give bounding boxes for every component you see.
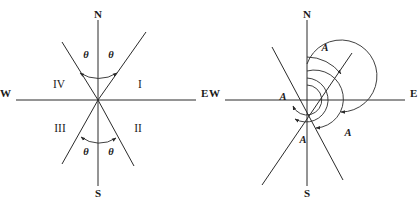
right-label-south: S (304, 187, 310, 199)
right-panel: N S E W A A A A (209, 8, 417, 199)
left-quadrant-1: I (138, 78, 142, 90)
left-ray-se (98, 100, 134, 166)
right-label-east: E (410, 87, 417, 99)
right-angle-a-west: A (278, 91, 286, 102)
right-arc-4 (307, 40, 377, 112)
left-angle-theta-se: θ (108, 146, 114, 157)
left-quadrant-4: IV (53, 78, 66, 90)
figure-root: N S E W I II III IV θ θ θ θ N (0, 0, 419, 205)
left-ray-sw (62, 100, 98, 164)
right-angle-a-ne: A (320, 42, 328, 53)
left-angle-theta-ne: θ (108, 49, 114, 60)
left-quadrant-3: III (54, 122, 66, 134)
left-label-east: E (201, 87, 208, 99)
left-label-south: S (95, 187, 101, 199)
left-angle-theta-sw: θ (83, 146, 89, 157)
right-label-west: W (209, 87, 220, 99)
right-label-north: N (303, 8, 311, 20)
left-label-west: W (0, 87, 11, 99)
left-angle-theta-nw: θ (83, 49, 89, 60)
right-angle-a-sw: A (298, 134, 306, 145)
left-ray-nw (62, 42, 98, 100)
right-angle-a-se: A (343, 127, 351, 138)
left-label-north: N (94, 8, 102, 20)
left-panel: N S E W I II III IV θ θ θ θ (0, 8, 208, 199)
compass-bearing-figure: N S E W I II III IV θ θ θ θ N (0, 0, 419, 205)
left-quadrant-2: II (134, 122, 142, 134)
